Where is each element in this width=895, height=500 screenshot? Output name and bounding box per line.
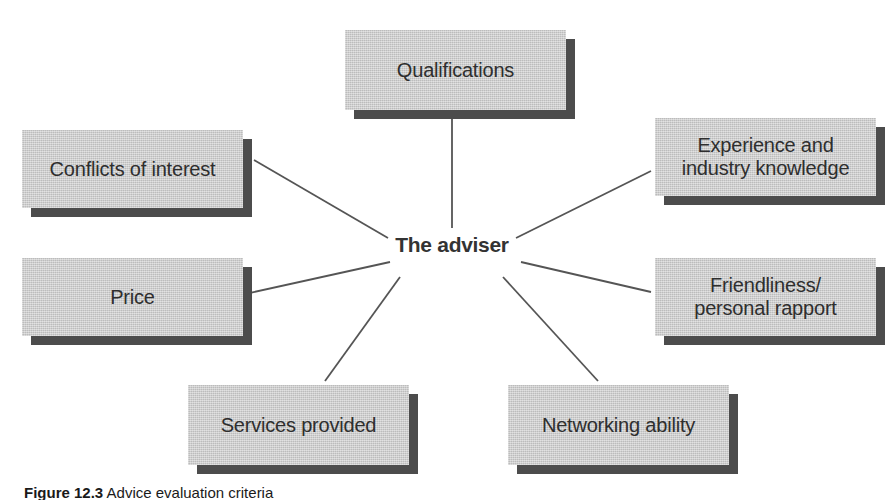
node-networking[interactable]: Networking ability: [508, 385, 729, 465]
hub-to-price: [245, 262, 390, 294]
node-label-services: Services provided: [213, 414, 385, 437]
hub-to-services: [325, 277, 400, 381]
node-label-friendliness: Friendliness/ personal rapport: [686, 274, 844, 320]
node-label-price: Price: [102, 286, 163, 309]
node-qualifications[interactable]: Qualifications: [345, 30, 566, 110]
node-label-experience: Experience and industry knowledge: [674, 134, 858, 180]
figure-caption-text: Advice evaluation criteria: [107, 484, 274, 500]
hub-to-conflicts: [254, 160, 388, 238]
node-price[interactable]: Price: [22, 258, 243, 336]
node-friendliness[interactable]: Friendliness/ personal rapport: [655, 258, 876, 336]
hub-to-networking: [503, 277, 598, 381]
hub-to-friendliness: [521, 262, 651, 292]
node-conflicts[interactable]: Conflicts of interest: [22, 130, 243, 208]
hub-center-label: The adviser: [355, 233, 549, 257]
node-label-networking: Networking ability: [534, 414, 703, 437]
node-services[interactable]: Services provided: [188, 385, 409, 465]
node-label-conflicts: Conflicts of interest: [42, 158, 224, 181]
figure-caption: Figure 12.3 Advice evaluation criteria: [24, 484, 724, 500]
figure-caption-number: Figure 12.3: [24, 484, 103, 500]
node-label-qualifications: Qualifications: [389, 59, 522, 82]
hub-to-experience: [516, 171, 651, 238]
node-experience[interactable]: Experience and industry knowledge: [655, 118, 876, 196]
figure-container: Qualifications Experience and industry k…: [0, 0, 895, 500]
